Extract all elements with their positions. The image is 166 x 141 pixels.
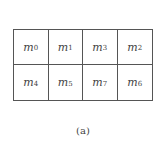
kmap-cell-m2: m2 (118, 30, 153, 65)
kmap-cell-m5: m5 (49, 65, 84, 100)
kmap-cell-m4: m4 (14, 65, 49, 100)
kmap-cell-m7: m7 (83, 65, 118, 100)
karnaugh-map-grid: m0 m1 m3 m2 m4 m5 m7 m6 (13, 29, 153, 101)
kmap-cell-m0: m0 (14, 30, 49, 65)
kmap-cell-m3: m3 (83, 30, 118, 65)
figure-caption: (a) (0, 125, 166, 136)
kmap-cell-m6: m6 (118, 65, 153, 100)
kmap-cell-m1: m1 (49, 30, 84, 65)
